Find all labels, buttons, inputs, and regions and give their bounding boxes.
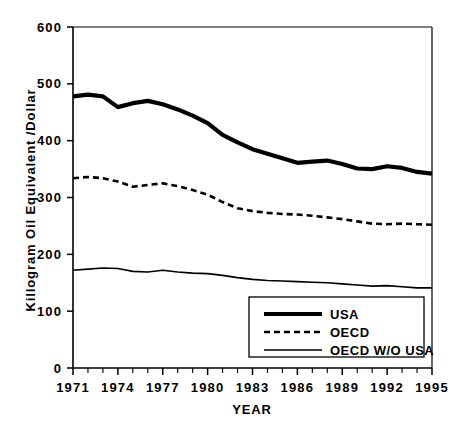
y-axis-title: Killogram Oil Equivalent /Dollar (23, 88, 38, 311)
legend-label-usa: USA (330, 307, 359, 322)
x-tick-label: 1992 (370, 380, 404, 395)
y-tick-label: 300 (37, 190, 62, 205)
y-tick-label: 500 (37, 76, 62, 91)
data-series-group (73, 95, 432, 288)
y-axis-ticks: 6005004003002001000 (37, 20, 73, 376)
x-tick-label: 1980 (191, 380, 225, 395)
line-chart-svg: 6005004003002001000 19711974197719801983… (0, 0, 475, 428)
series-line-usa (73, 95, 432, 174)
y-tick-label: 200 (37, 247, 62, 262)
chart-container: 6005004003002001000 19711974197719801983… (0, 0, 475, 428)
series-line-oecd (73, 177, 432, 225)
x-tick-label: 1983 (236, 380, 270, 395)
x-tick-label: 1989 (325, 380, 359, 395)
x-tick-label: 1986 (281, 380, 315, 395)
legend: USAOECDOECD W/O USA (249, 297, 434, 358)
x-tick-label: 1971 (56, 380, 90, 395)
y-tick-label: 600 (37, 20, 62, 35)
y-tick-label: 400 (37, 133, 62, 148)
x-tick-label: 1995 (415, 380, 449, 395)
y-tick-label: 100 (37, 304, 62, 319)
y-tick-label: 0 (54, 361, 62, 376)
series-line-oecd-w-o-usa (73, 268, 432, 288)
x-axis-title: YEAR (232, 402, 272, 417)
x-tick-label: 1974 (101, 380, 135, 395)
legend-label-oecd-w-o-usa: OECD W/O USA (330, 343, 434, 358)
x-axis-ticks: 197119741977198019831986198919921995 (56, 368, 449, 395)
legend-label-oecd: OECD (330, 325, 370, 340)
x-tick-label: 1977 (146, 380, 180, 395)
